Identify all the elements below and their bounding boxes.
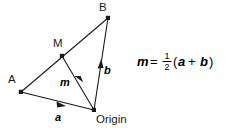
equation-fraction-denominator: 2 [164, 62, 169, 72]
vector-diagram: B M A Origin a b m m = 1 2 ( a + b ) [0, 0, 226, 136]
equation-plus-sign: + [188, 54, 196, 69]
equation: m = 1 2 ( a + b ) [137, 51, 213, 72]
equation-term-b: b [200, 54, 208, 69]
vector-label-m: m [60, 76, 70, 88]
vertex-dot-b [106, 16, 110, 20]
point-label-b: B [99, 1, 107, 13]
equation-close-paren: ) [209, 54, 213, 69]
vertex-dot-m [60, 54, 64, 58]
point-label-m: M [53, 37, 63, 49]
arrowhead-vector-b [98, 59, 104, 69]
vector-label-b: b [104, 64, 111, 76]
equation-term-a: a [178, 54, 185, 69]
equation-lhs: m [137, 54, 149, 69]
equation-fraction-numerator: 1 [164, 51, 169, 61]
vertex-dot-origin [92, 108, 96, 112]
vector-label-a: a [55, 111, 61, 123]
point-label-origin: Origin [96, 113, 127, 125]
diagram-lines [21, 18, 108, 110]
vertex-dot-a [19, 90, 23, 94]
equation-equals-sign: = [150, 54, 158, 69]
point-label-a: A [8, 73, 16, 85]
